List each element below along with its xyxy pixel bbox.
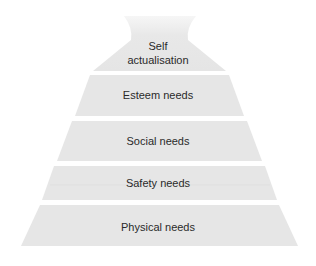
tier-label-social: Social needs — [0, 134, 316, 148]
tier-label-physical: Physical needs — [0, 220, 316, 234]
tier-label-self-line1: Self — [0, 39, 316, 53]
tier-label-self-line2: actualisation — [0, 53, 316, 67]
tier-label-safety: Safety needs — [0, 176, 316, 190]
tier-label-esteem: Esteem needs — [0, 88, 316, 102]
